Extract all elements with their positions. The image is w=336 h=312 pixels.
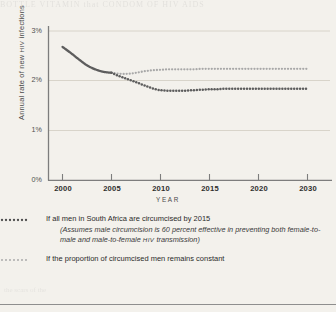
x-tick-label-2015: 2015 — [190, 184, 230, 193]
legend-note-circumcision: (Assumes male circumcision is 60 percent… — [46, 225, 336, 246]
x-tick-label-2020: 2020 — [239, 184, 279, 193]
x-tick-label-2005: 2005 — [92, 184, 132, 193]
series-baseline-path — [63, 47, 112, 73]
page-horizontal-rule — [0, 304, 336, 305]
x-tickmarks — [63, 174, 308, 180]
series-constant-path — [110, 68, 307, 75]
y-tick-label-1: 1% — [18, 125, 42, 134]
plot-svg — [0, 0, 336, 200]
legend-item-constant: If the proportion of circumcised men rem… — [0, 254, 336, 265]
x-axis-label: YEAR — [118, 196, 218, 203]
page-bleed-through-bottom: the scars of the — [4, 286, 334, 298]
chart-legend: If all men in South Africa are circumcis… — [0, 214, 336, 265]
legend-label-constant: If the proportion of circumcised men rem… — [46, 254, 336, 265]
x-tick-label-2010: 2010 — [141, 184, 181, 193]
axis-lines — [48, 26, 332, 181]
y-tick-label-0: 0% — [18, 175, 42, 184]
legend-label-circumcision: If all men in South Africa are circumcis… — [46, 214, 336, 225]
y-tick-label-2: 2% — [18, 75, 42, 84]
y-axis-label: Annual rate of new HIV infections — [17, 0, 26, 138]
series-circumcision-path — [110, 72, 307, 92]
x-tick-label-2000: 2000 — [43, 184, 83, 193]
plot-area: Annual rate of new HIV infections 3% 2% … — [0, 0, 336, 200]
y-tick-label-3: 3% — [18, 26, 42, 35]
x-tick-label-2030: 2030 — [288, 184, 328, 193]
legend-swatch-dotted-dark-icon — [0, 218, 42, 222]
gridlines — [48, 31, 330, 131]
chart-figure: Annual rate of new HIV infections 3% 2% … — [0, 0, 336, 302]
legend-swatch-dotted-light-icon — [0, 258, 42, 262]
legend-item-circumcision: If all men in South Africa are circumcis… — [0, 214, 336, 246]
